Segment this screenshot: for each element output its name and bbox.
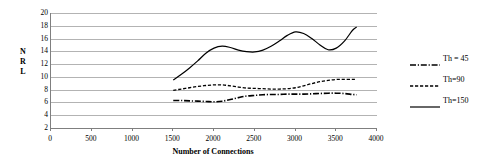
y-axis-tick-label: 10	[30, 73, 48, 81]
y-axis-tick-label: 16	[30, 35, 48, 43]
series-line-th150	[173, 27, 356, 80]
legend-label: Th=150	[443, 96, 468, 105]
series-line-th90	[173, 79, 356, 90]
x-axis-tick-marks	[50, 128, 376, 132]
y-axis-tick-labels: 2468101214161820	[30, 10, 48, 132]
x-axis-tick-labels: 05001000150020002500300035004000	[50, 134, 376, 146]
x-axis-tick-label: 3500	[315, 134, 355, 143]
y-axis-tick-label: 12	[30, 60, 48, 68]
x-axis-tick-label: 3000	[275, 134, 315, 143]
y-axis-title-char-1: N	[16, 47, 30, 57]
x-axis-tick-label: 500	[71, 134, 111, 143]
y-axis-tick-label: 2	[30, 124, 48, 132]
series-layer	[51, 13, 377, 128]
x-axis-tick-label: 2500	[234, 134, 274, 143]
x-axis-tick-mark	[132, 128, 133, 131]
x-axis-tick-label: 0	[30, 134, 70, 143]
line-chart: N R L 2468101214161820 05001000150020002…	[0, 0, 496, 167]
y-axis-tick-label: 20	[30, 9, 48, 17]
y-axis-tick-label: 14	[30, 47, 48, 55]
x-axis-title: Number of Connections	[50, 147, 376, 157]
legend-entry[interactable]: Th=150	[410, 90, 496, 111]
x-axis-tick-mark	[254, 128, 255, 131]
y-axis-tick-label: 6	[30, 98, 48, 106]
legend-entry[interactable]: Th = 45	[410, 48, 496, 69]
x-axis-tick-mark	[91, 128, 92, 131]
x-axis-tick-label: 1000	[112, 134, 152, 143]
legend-label: Th = 45	[443, 54, 468, 63]
x-axis-tick-mark	[335, 128, 336, 131]
x-axis-tick-label: 4000	[356, 134, 396, 143]
x-axis-tick-mark	[213, 128, 214, 131]
legend-key-icon	[410, 76, 440, 84]
legend: Th = 45Th=90Th=150	[410, 48, 496, 111]
y-axis-title: N R L	[16, 47, 30, 77]
y-axis-tick-label: 8	[30, 86, 48, 94]
legend-key-icon	[410, 55, 440, 63]
legend-key-icon	[410, 97, 440, 105]
y-axis-tick-label: 4	[30, 111, 48, 119]
x-axis-tick-label: 1500	[152, 134, 192, 143]
x-axis-tick-mark	[295, 128, 296, 131]
x-axis-tick-label: 2000	[193, 134, 233, 143]
x-axis-tick-mark	[376, 128, 377, 131]
legend-label: Th=90	[443, 75, 464, 84]
x-axis-tick-mark	[172, 128, 173, 131]
y-axis-tick-label: 18	[30, 22, 48, 30]
series-line-th45	[173, 93, 356, 102]
plot-area	[50, 13, 377, 128]
x-axis-tick-mark	[50, 128, 51, 131]
y-axis-title-char-3: L	[16, 67, 30, 77]
y-axis-title-char-2: R	[16, 57, 30, 67]
legend-entry[interactable]: Th=90	[410, 69, 496, 90]
